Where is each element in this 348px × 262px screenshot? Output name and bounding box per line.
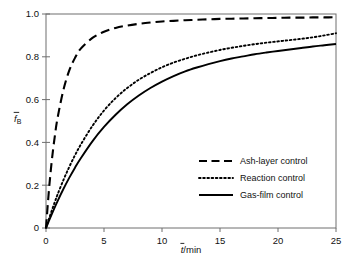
legend-label: Ash-layer control	[240, 156, 308, 166]
line-chart: 0510152025 00.20.40.60.81.0 t/min fB Ash…	[0, 0, 348, 262]
chart-container: 0510152025 00.20.40.60.81.0 t/min fB Ash…	[0, 0, 348, 262]
y-tick-label: 0	[34, 222, 39, 233]
x-tick-label: 10	[157, 235, 168, 246]
y-tick-label: 0.6	[26, 94, 39, 105]
legend-label: Gas-film control	[240, 190, 303, 200]
x-tick-label: 20	[273, 235, 284, 246]
x-tick-label: 15	[215, 235, 226, 246]
x-tick-label: 0	[43, 235, 48, 246]
y-tick-label: 1.0	[26, 8, 39, 19]
y-tick-label: 0.8	[26, 51, 39, 62]
x-tick-label: 25	[331, 235, 342, 246]
legend-label: Reaction control	[240, 173, 305, 183]
y-tick-label: 0.2	[26, 180, 39, 191]
svg-text:t/min: t/min	[181, 244, 202, 255]
y-tick-label: 0.4	[26, 137, 39, 148]
x-axis-title: t/min	[180, 243, 201, 255]
x-tick-label: 5	[101, 235, 106, 246]
